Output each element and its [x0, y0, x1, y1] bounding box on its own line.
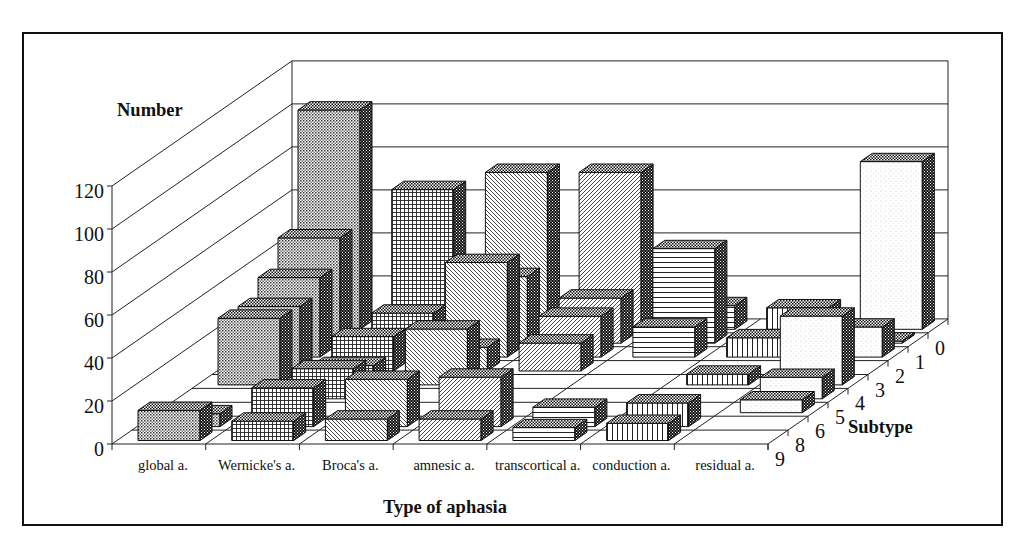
figure-page: 020406080100120global a.Wernicke's a.Bro… [0, 0, 1029, 548]
bar-side-face [527, 268, 539, 343]
x-axis-title: Type of aphasia [383, 497, 507, 517]
y-tick-label: 120 [74, 180, 104, 202]
depth-tick-label: 6 [815, 420, 825, 442]
bar-top-face [252, 380, 326, 388]
bar-top-face [298, 102, 372, 110]
bar [138, 402, 212, 440]
bar-top-face [345, 371, 419, 379]
bar-top-face [627, 395, 701, 403]
bar-side-face [280, 310, 292, 385]
bar-top-face [258, 269, 332, 277]
y-tick-label: 80 [84, 266, 104, 288]
bar-top-face [513, 419, 587, 427]
x-tick-label: residual a. [695, 457, 755, 473]
y-axis-title: Number [117, 100, 183, 120]
bar-top-face [392, 181, 466, 189]
bar-side-face [407, 371, 419, 427]
y-tick-label: 100 [74, 223, 104, 245]
bar [633, 319, 707, 357]
bar-front-face [218, 318, 280, 385]
bar-top-face [419, 411, 493, 419]
bar-top-face [439, 369, 513, 377]
depth-tick-label: 4 [855, 392, 865, 414]
bar-side-face [501, 369, 513, 427]
bar-top-face [278, 230, 352, 238]
bar [232, 413, 306, 441]
bar-front-face [138, 410, 200, 440]
x-tick-label: transcortical a. [495, 457, 580, 473]
x-tick-label: amnesic a. [413, 457, 474, 473]
bar-top-face [653, 240, 727, 248]
bar [860, 153, 934, 329]
side-wall-gridline [112, 104, 292, 229]
depth-axis-title: Subtype [848, 417, 913, 437]
depth-tick-label: 0 [935, 337, 945, 359]
bar-top-face [740, 392, 814, 400]
bar [607, 415, 681, 441]
bar [513, 419, 587, 440]
bar-top-face [332, 328, 406, 336]
y-tick-label: 40 [84, 352, 104, 374]
bar-side-face [641, 164, 653, 329]
side-wall-gridline [112, 61, 292, 186]
bar-top-face [238, 298, 312, 306]
bar-top-face [218, 310, 292, 318]
bar-side-face [547, 164, 559, 329]
y-tick-label: 20 [84, 395, 104, 417]
bar-top-face [559, 290, 633, 298]
bar-top-face [372, 305, 446, 313]
bar-side-face [715, 240, 727, 343]
bar-front-face [513, 428, 575, 441]
bar-front-face [740, 400, 802, 413]
bar [419, 411, 493, 441]
bar-top-face [780, 308, 854, 316]
bar-top-face [607, 415, 681, 423]
bar-side-face [922, 153, 934, 329]
bar-top-face [232, 413, 306, 421]
bar [740, 392, 814, 413]
3d-bar-chart: 020406080100120global a.Wernicke's a.Bro… [0, 0, 1029, 548]
bar-top-face [485, 164, 559, 172]
bar-top-face [633, 319, 707, 327]
bar-side-face [507, 254, 519, 357]
bar-front-face [232, 421, 294, 440]
bar-top-face [687, 366, 761, 374]
bar [218, 310, 292, 385]
y-tick-label: 60 [84, 309, 104, 331]
depth-tick-label: 2 [895, 365, 905, 387]
bar-top-face [325, 411, 399, 419]
x-tick-label: Wernicke's a. [218, 457, 295, 473]
bar-top-face [579, 164, 653, 172]
y-tick-label: 0 [94, 438, 104, 460]
bar [325, 411, 399, 441]
side-wall-gridline [112, 147, 292, 272]
depth-tick-label: 5 [835, 406, 845, 428]
bar-side-face [621, 290, 633, 344]
bars [138, 102, 934, 441]
bar-front-face [633, 327, 695, 357]
bar-top-face [519, 335, 593, 343]
bar-side-face [320, 269, 332, 357]
depth-tick-label: 9 [775, 448, 785, 470]
x-tick-label: Broca's a. [322, 457, 379, 473]
bar-front-face [860, 162, 922, 330]
bar-top-face [292, 360, 366, 368]
x-tick-label: conduction a. [592, 457, 670, 473]
bar-top-face [405, 321, 479, 329]
bar-top-face [138, 402, 212, 410]
bar-top-face [445, 254, 519, 262]
bar-front-face [325, 419, 387, 441]
bar [519, 335, 593, 371]
depth-tick-label: 8 [795, 434, 805, 456]
bar-top-face [860, 153, 934, 161]
bar-front-face [687, 374, 749, 385]
bar-top-face [760, 369, 834, 377]
bar-front-face [607, 423, 669, 440]
bar-front-face [419, 419, 481, 441]
depth-tick-label: 1 [915, 351, 925, 373]
depth-tick-label: 3 [875, 379, 885, 401]
bar [687, 366, 761, 385]
bar-top-face [767, 300, 841, 308]
bar-top-face [533, 399, 607, 407]
x-tick-label: global a. [138, 457, 188, 473]
